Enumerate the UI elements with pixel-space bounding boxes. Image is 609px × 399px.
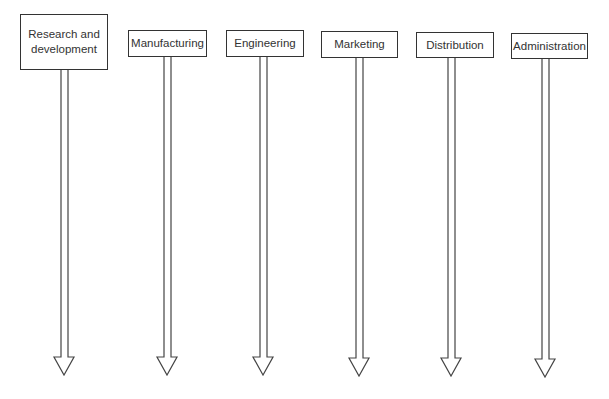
arrow-research — [54, 70, 74, 375]
box-distribution: Distribution — [416, 32, 494, 58]
box-marketing: Marketing — [321, 31, 398, 58]
box-label: Marketing — [334, 37, 385, 52]
box-label: Engineering — [234, 36, 295, 51]
arrow-administration — [535, 59, 555, 377]
box-manufacturing: Manufacturing — [128, 30, 207, 57]
arrow-distribution — [441, 58, 461, 376]
arrow-manufacturing — [157, 57, 177, 375]
box-label: Distribution — [426, 38, 484, 53]
box-administration: Administration — [511, 33, 588, 59]
box-label-line1: Research and — [28, 27, 100, 42]
box-label-line2: development — [31, 42, 97, 57]
box-research-development: Research and development — [20, 14, 108, 70]
arrow-engineering — [253, 57, 273, 375]
box-label: Administration — [513, 39, 586, 54]
box-engineering: Engineering — [226, 30, 304, 57]
arrow-marketing — [349, 58, 369, 376]
box-label: Manufacturing — [131, 36, 204, 51]
